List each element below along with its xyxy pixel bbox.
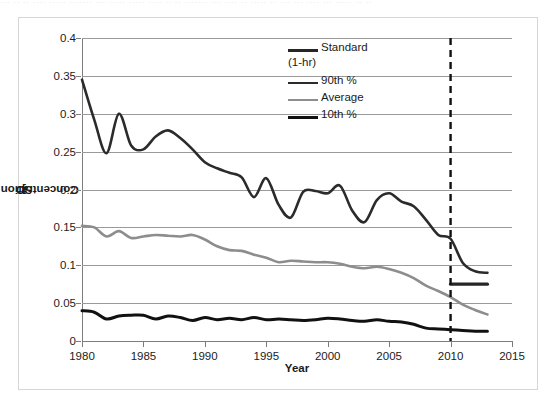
y-tick-mark xyxy=(76,114,81,115)
x-tick-mark xyxy=(143,341,144,347)
legend-item-average: Average xyxy=(288,92,408,109)
y-tick-label: 0.25 xyxy=(54,146,76,158)
x-tick-mark xyxy=(266,341,267,347)
legend-item-p90: 90th % xyxy=(288,75,408,92)
legend-sublabel-standard: (1-hr) xyxy=(288,56,316,68)
x-tick-mark xyxy=(389,341,390,347)
y-tick-mark xyxy=(76,38,81,39)
y-tick-mark xyxy=(76,265,81,266)
x-axis-line xyxy=(82,341,512,342)
y-tick-label: 0.1 xyxy=(60,259,76,271)
series-line-10th xyxy=(82,311,487,332)
legend-label-standard: Standard xyxy=(321,41,368,53)
cropped-text-strip: ··· ·· ·· ···· ····· ······· ··· ····· ·… xyxy=(0,0,551,12)
x-axis-title: Year xyxy=(82,362,512,374)
x-tick-label: 1990 xyxy=(192,350,218,362)
legend-label-average: Average xyxy=(321,91,364,103)
y-tick-label: 0.15 xyxy=(54,221,76,233)
legend-swatch-p10 xyxy=(288,116,318,119)
y-tick-mark xyxy=(76,303,81,304)
y-tick-label: 0.3 xyxy=(60,108,76,120)
legend-swatch-standard xyxy=(288,49,318,52)
legend-swatch-average xyxy=(288,99,318,101)
cropped-text: ··· ·· ·· ···· ····· ······· ··· ····· ·… xyxy=(0,0,551,7)
x-tick-label: 2000 xyxy=(315,350,341,362)
legend-label-p10: 10th % xyxy=(321,108,357,120)
y-tick-mark xyxy=(76,190,81,191)
y-axis-ticks: 00.050.10.150.20.250.30.350.4 xyxy=(30,38,76,341)
chart-screenshot: ··· ·· ·· ···· ····· ······· ··· ····· ·… xyxy=(0,0,551,407)
x-tick-label: 1980 xyxy=(69,350,95,362)
x-tick-label: 2010 xyxy=(438,350,464,362)
x-tick-label: 2015 xyxy=(499,350,525,362)
y-tick-label: 0.2 xyxy=(60,184,76,196)
y-tick-mark xyxy=(76,76,81,77)
x-tick-mark xyxy=(451,341,452,347)
series-line-average xyxy=(82,226,487,315)
x-tick-mark xyxy=(512,341,513,347)
legend-item-p10: 10th % xyxy=(288,109,408,126)
legend-swatch-p90 xyxy=(288,82,318,84)
series-line-90th xyxy=(82,80,487,273)
x-tick-label: 2005 xyxy=(376,350,402,362)
y-tick-mark xyxy=(76,227,81,228)
x-tick-mark xyxy=(205,341,206,347)
legend: Standard(1-hr)90th %Average10th % xyxy=(288,42,408,126)
legend-label-p90: 90th % xyxy=(321,74,357,86)
y-tick-mark xyxy=(76,341,81,342)
y-tick-label: 0.05 xyxy=(54,297,76,309)
x-tick-mark xyxy=(82,341,83,347)
y-axis-title-suffix: ] xyxy=(22,184,26,196)
y-tick-label: 0.4 xyxy=(60,32,76,44)
x-tick-label: 1985 xyxy=(131,350,157,362)
x-tick-label: 1995 xyxy=(253,350,279,362)
y-tick-mark xyxy=(76,152,81,153)
legend-item-standard: Standard(1-hr) xyxy=(288,42,408,75)
x-tick-mark xyxy=(328,341,329,347)
y-tick-label: 0.35 xyxy=(54,70,76,82)
